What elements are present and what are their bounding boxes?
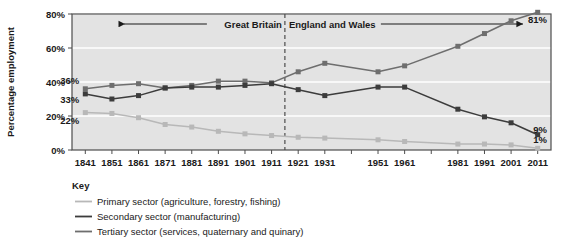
series-marker [509,142,514,147]
series-marker [242,131,247,136]
series-marker [322,61,327,66]
series-marker [322,93,327,98]
series-marker [109,97,114,102]
series-marker [376,85,381,90]
x-tick-label: 1951 [367,157,389,168]
chart-svg: 0%20%40%60%80%Percentage employment18411… [0,0,566,239]
series-marker [482,31,487,36]
x-tick-label: 1851 [101,157,123,168]
point-value-label: 22% [60,115,80,126]
series-marker [402,63,407,68]
series-marker [455,44,460,49]
region-left-label: Great Britain [224,19,282,30]
series-marker [509,18,514,23]
point-value-label: 81% [528,14,548,25]
series-marker [402,139,407,144]
series-marker [455,107,460,112]
series-marker [376,69,381,74]
x-tick-label: 1881 [181,157,203,168]
series-marker [269,133,274,138]
y-tick-label: 60% [46,43,66,54]
x-tick-label: 1991 [474,157,496,168]
x-tick-label: 1921 [288,157,310,168]
series-marker [189,125,194,130]
x-tick-label: 1901 [234,157,256,168]
series-marker [83,110,88,115]
series-marker [83,86,88,91]
region-right-label: England and Wales [289,19,376,30]
series-marker [322,136,327,141]
y-tick-label: 80% [46,9,66,20]
series-marker [189,85,194,90]
point-value-label: 9% [533,124,547,135]
series-marker [136,81,141,86]
key-label-2: Secondary sector (manufacturing) [97,211,240,222]
x-tick-label: 2001 [501,157,523,168]
x-tick-label: 2011 [527,157,548,168]
series-marker [136,115,141,120]
x-tick-label: 1871 [155,157,177,168]
series-marker [216,129,221,134]
x-tick-label: 1961 [394,157,416,168]
series-marker [296,135,301,140]
series-marker [482,114,487,119]
series-marker [535,146,540,151]
point-value-label: 33% [60,94,80,105]
key-label-1: Primary sector (agriculture, forestry, f… [97,196,281,207]
y-axis-title: Percentage employment [5,26,16,137]
y-tick-label: 0% [51,145,65,156]
series-marker [83,91,88,96]
series-marker [136,93,141,98]
series-marker [509,120,514,125]
series-marker [242,83,247,88]
point-value-label: 1% [533,134,547,145]
series-marker [482,142,487,147]
series-marker [163,122,168,127]
series-marker [163,85,168,90]
point-value-label: 36% [60,75,80,86]
series-marker [296,69,301,74]
series-marker [109,83,114,88]
x-tick-label: 1981 [447,157,469,168]
series-marker [402,85,407,90]
key-title: Key [72,180,90,191]
x-tick-label: 1931 [314,157,336,168]
x-tick-label: 1891 [208,157,230,168]
series-marker [216,85,221,90]
series-marker [216,79,221,84]
chart-figure: 0%20%40%60%80%Percentage employment18411… [0,0,566,239]
series-marker [455,142,460,147]
series-marker [109,111,114,116]
key-label-3: Tertiary sector (services, quaternary an… [97,226,303,237]
x-tick-label: 1911 [261,157,282,168]
series-marker [296,87,301,92]
series-marker [376,137,381,142]
x-tick-label: 1841 [75,157,97,168]
series-marker [269,81,274,86]
x-tick-label: 1861 [128,157,150,168]
